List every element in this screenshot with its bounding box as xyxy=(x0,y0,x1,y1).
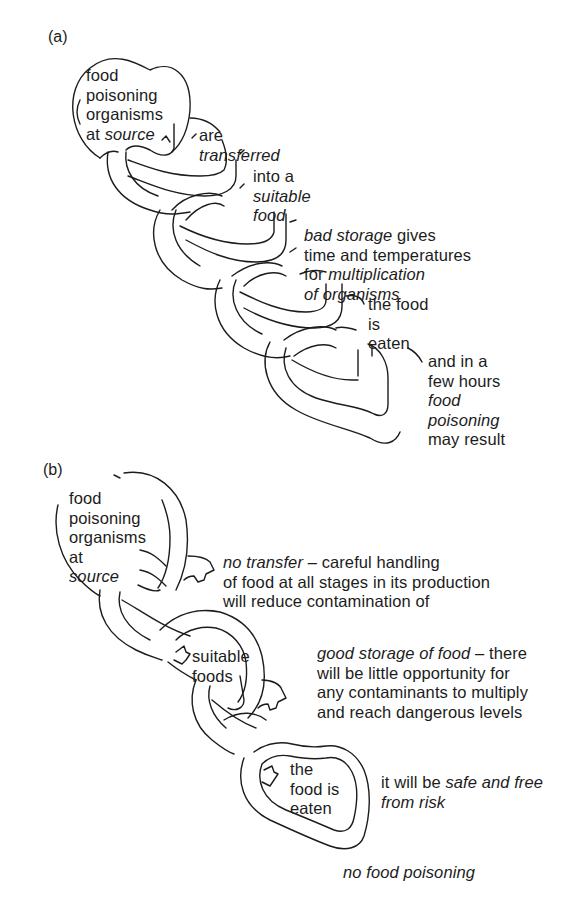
panel-a-label: (a) xyxy=(48,28,68,46)
b-safe-line-1: it will be safe and free xyxy=(381,773,543,793)
a-source-line-2: poisoning xyxy=(86,86,163,106)
b-good-storage-text: good storage of food – there will be lit… xyxy=(317,644,528,722)
a-source-line-1: food xyxy=(86,66,163,86)
b-good-storage-line-1: good storage of food – there xyxy=(317,644,528,664)
a-result-line-2: few hours xyxy=(428,372,505,392)
a-transferred-text: are transferred xyxy=(199,126,280,165)
a-transferred-line-2: transferred xyxy=(199,146,280,166)
b-safe-text: it will be safe and free from risk xyxy=(381,773,543,812)
b-eaten-line-3: eaten xyxy=(290,799,339,819)
b-suitable-line-2: foods xyxy=(192,667,250,687)
b-source-text: food poisoning organisms at source xyxy=(69,489,146,587)
b-no-transfer-line-2: of food at all stages in its production xyxy=(223,573,490,593)
a-result-line-5: may result xyxy=(428,430,505,450)
b-no-transfer-line-3: will reduce contamination of xyxy=(223,592,490,612)
a-result-text: and in a few hours food poisoning may re… xyxy=(428,352,505,450)
b-source-line-2: poisoning xyxy=(69,509,146,529)
a-bad-storage-text: bad storage gives time and temperatures … xyxy=(304,226,471,304)
a-transferred-line-1: are xyxy=(199,126,280,146)
a-suitable-line-3: food xyxy=(253,206,311,226)
a-storage-line-3: for multiplication xyxy=(304,265,471,285)
a-storage-line-2: time and temperatures xyxy=(304,246,471,266)
a-suitable-food-text: into a suitable food xyxy=(253,167,311,226)
b-no-transfer-text: no transfer – careful handling of food a… xyxy=(223,553,490,612)
a-source-line-4: at source xyxy=(86,125,163,145)
b-good-storage-line-4: and reach dangerous levels xyxy=(317,703,528,723)
b-source-line-4: at xyxy=(69,548,146,568)
b-food-eaten-text: the food is eaten xyxy=(290,760,339,819)
b-source-line-3: organisms xyxy=(69,528,146,548)
a-eaten-line-1: the food xyxy=(368,295,428,315)
a-eaten-line-3: eaten xyxy=(368,334,428,354)
a-source-text: food poisoning organisms at source xyxy=(86,66,163,144)
b-eaten-line-1: the xyxy=(290,760,339,780)
b-good-storage-line-2: will be little opportunity for xyxy=(317,664,528,684)
b-suitable-line-1: suitable xyxy=(192,647,250,667)
a-result-line-3: food xyxy=(428,391,505,411)
b-good-storage-line-3: any contaminants to multiply xyxy=(317,683,528,703)
panel-b-label: (b) xyxy=(43,461,63,479)
a-suitable-line-1: into a xyxy=(253,167,311,187)
a-food-eaten-text: the food is eaten xyxy=(368,295,428,354)
a-suitable-line-2: suitable xyxy=(253,187,311,207)
b-suitable-foods-text: suitable foods xyxy=(192,647,250,686)
b-safe-line-2: from risk xyxy=(381,793,543,813)
a-eaten-line-2: is xyxy=(368,315,428,335)
b-source-line-1: food xyxy=(69,489,146,509)
a-storage-line-1: bad storage gives xyxy=(304,226,471,246)
b-source-line-5: source xyxy=(69,567,146,587)
b-eaten-line-2: food is xyxy=(290,780,339,800)
b-conclusion-text: no food poisoning xyxy=(343,863,475,883)
a-source-line-3: organisms xyxy=(86,105,163,125)
b-no-transfer-line-1: no transfer – careful handling xyxy=(223,553,490,573)
a-result-line-4: poisoning xyxy=(428,411,505,431)
a-result-line-1: and in a xyxy=(428,352,505,372)
